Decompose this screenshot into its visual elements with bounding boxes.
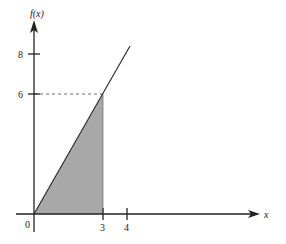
origin-label: 0 — [25, 219, 30, 230]
chart: f(x) x 8 6 3 4 0 — [0, 0, 286, 244]
x-tick-label-4: 4 — [124, 222, 129, 233]
y-tick-label-6: 6 — [18, 89, 23, 100]
x-tick-label-3: 3 — [100, 222, 105, 233]
x-axis-label: x — [263, 209, 269, 220]
y-tick-label-8: 8 — [18, 49, 23, 60]
y-axis-label: f(x) — [30, 8, 45, 20]
